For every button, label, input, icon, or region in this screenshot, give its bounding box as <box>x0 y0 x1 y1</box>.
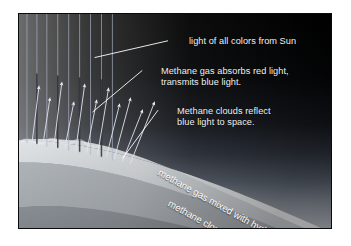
label-cloud-reflection: Methane clouds reflect blue light to spa… <box>177 106 271 129</box>
label-methane-absorption: Methane gas absorbs red light, transmits… <box>161 66 289 89</box>
label-cloud-reflection-line2: blue light to space. <box>177 117 271 128</box>
label-cloud-reflection-line1: Methane clouds reflect <box>177 106 271 117</box>
label-sunlight: light of all colors from Sun <box>189 36 296 47</box>
label-methane-absorption-line1: Methane gas absorbs red light, <box>161 66 289 77</box>
label-methane-absorption-line2: transmits blue light. <box>161 77 289 88</box>
illustration-panel: light of all colors from Sun Methane gas… <box>18 13 332 229</box>
figure-root: light of all colors from Sun Methane gas… <box>0 0 351 246</box>
